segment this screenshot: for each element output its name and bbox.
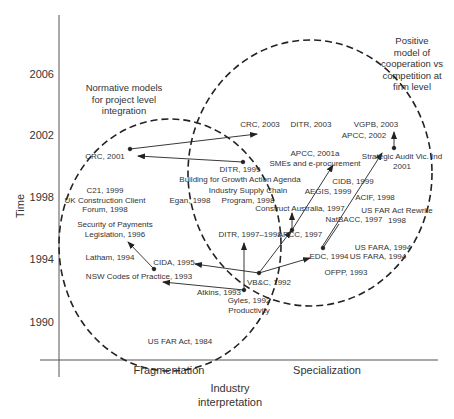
right-region-caption: Positive model of cooperation vs competi… [381, 35, 443, 93]
node-security-of-payments: Security of Payments Legislation, 1996 [77, 220, 153, 239]
node-c21-ukccf: C21, 1999 UK Construction Client Forum, … [65, 186, 146, 215]
node-crc-2003: CRC, 2003 [240, 120, 280, 130]
node-cidb-1999: CIDB, 1999 [332, 177, 373, 187]
node-apcc-2002: APCC, 2002 [342, 131, 386, 141]
node-vgpb-2003: VGPB, 2003 [354, 120, 398, 130]
x-axis-title-line2: interpretation [198, 396, 262, 408]
node-ofpp-1993: OFPP, 1993 [325, 268, 368, 278]
node-latham-1994: Latham, 1994 [86, 253, 135, 263]
y-tick-2006: 2006 [14, 68, 54, 80]
node-ditr-1997-1998: DITR, 1997–1998 [218, 230, 281, 240]
node-egan-1998: Egan, 1998 [170, 196, 211, 206]
node-vbc-1992: VB&C, 1992 [247, 278, 291, 288]
node-us-far-act-1984: US FAR Act, 1984 [148, 337, 212, 347]
y-tick-1994: 1994 [14, 253, 54, 265]
node-apcc-2001a: APCC, 2001a SMEs and e-procurement [269, 149, 360, 168]
x-category-specialization: Specialization [293, 364, 361, 376]
node-construct-australia: Construct Australia, 1997 [255, 204, 344, 214]
x-category-fragmentation: Fragmentation [134, 364, 205, 376]
node-industry-supply-chain: Industry Supply Chain Program, 1998 [209, 186, 287, 205]
y-tick-2002: 2002 [14, 129, 54, 141]
y-tick-1998: 1998 [14, 191, 54, 203]
node-acif-1998: ACIF, 1998 [355, 193, 395, 203]
y-tick-1990: 1990 [14, 316, 54, 328]
node-edc-1994: EDC, 1994 [309, 252, 348, 262]
node-crc-2001: CRC, 2001 [85, 152, 125, 162]
x-axis-title-line1: Industry [210, 382, 249, 394]
node-nsw-codes: NSW Codes of Practice, 1993 [86, 272, 192, 282]
node-apcc-1997: APCC, 1997 [278, 230, 322, 240]
node-ditr-2003: DITR, 2003 [291, 120, 332, 130]
node-us-fara-1994-b: US FARA, 1994 [350, 252, 406, 262]
node-aegis-1999: AEGIS, 1999 [305, 187, 352, 197]
left-region-caption: Normative models for project level integ… [86, 82, 163, 117]
node-cida-1995: CIDA, 1995 [153, 258, 194, 268]
node-strategic-audit-vic: Strategic Audit Vic. Ind 2001 [362, 152, 442, 171]
node-natbacc-1997: NatBACC, 1997 [326, 215, 383, 225]
node-gyles-1992: Gyles, 1992 Productivity [228, 296, 271, 315]
